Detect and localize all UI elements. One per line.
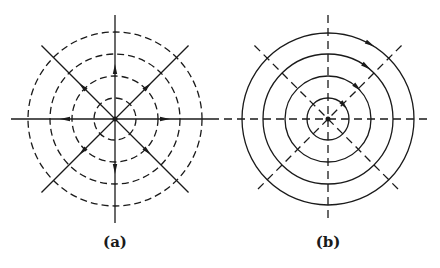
arrowhead-icon [361, 62, 370, 70]
center-point [113, 117, 118, 122]
arrowhead-icon [113, 64, 117, 74]
panel-b-circular-field [224, 15, 432, 223]
center-point [326, 117, 331, 122]
arrowhead-icon [60, 117, 70, 121]
arrowhead-icon [365, 40, 375, 47]
field-lines-figure [0, 0, 440, 268]
panel-a-radial-field [11, 15, 219, 223]
panel-b-caption: (b) [316, 233, 341, 251]
arrowhead-icon [160, 117, 170, 121]
panel-a-caption: (a) [103, 233, 127, 251]
arrowhead-icon [113, 164, 117, 174]
